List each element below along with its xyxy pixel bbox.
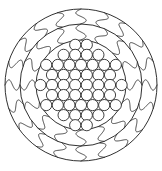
core-circle-35	[64, 99, 75, 110]
core-circle-8	[64, 59, 75, 70]
core-circle-31	[93, 89, 104, 100]
core-circle-40	[58, 110, 69, 121]
core-circle-45	[81, 120, 92, 131]
core-circle-27	[46, 89, 57, 100]
core-circle-12	[110, 59, 121, 70]
core-circle-24	[93, 79, 104, 90]
core-circle-20	[46, 79, 57, 90]
core-circle-18	[104, 69, 115, 80]
core-circle-14	[58, 69, 69, 80]
core-circle-5	[93, 49, 104, 60]
core-circle-21	[58, 79, 69, 90]
core-circle-23	[81, 79, 92, 90]
core-circle-9	[75, 59, 86, 70]
core-circle-1	[81, 39, 92, 50]
core-circle-34	[52, 99, 63, 110]
core-circle-42	[81, 110, 92, 121]
core-circle-38	[99, 99, 110, 110]
figure-root	[0, 0, 162, 171]
core-circle-37	[87, 99, 98, 110]
core-circle-39	[110, 99, 121, 110]
core-circle-4	[81, 49, 92, 60]
core-circle-15	[70, 69, 81, 80]
core-circle-44	[70, 120, 81, 131]
concentric-ring-diagram	[0, 0, 162, 171]
core-circle-6	[41, 59, 52, 70]
core-circle-26	[116, 79, 127, 90]
core-circle-43	[93, 110, 104, 121]
core-circle-19	[35, 79, 46, 90]
core-circle-22	[70, 79, 81, 90]
core-circle-30	[81, 89, 92, 100]
core-circle-29	[70, 89, 81, 100]
core-circle-0	[70, 39, 81, 50]
core-circle-41	[70, 110, 81, 121]
core-circle-2	[58, 49, 69, 60]
core-circle-3	[70, 49, 81, 60]
core-circle-11	[99, 59, 110, 70]
core-circle-32	[104, 89, 115, 100]
core-circle-7	[52, 59, 63, 70]
core-circle-17	[93, 69, 104, 80]
core-circle-28	[58, 89, 69, 100]
core-circle-33	[41, 99, 52, 110]
core-circle-10	[87, 59, 98, 70]
core-circle-36	[75, 99, 86, 110]
core-circle-25	[104, 79, 115, 90]
core-circle-13	[46, 69, 57, 80]
core-circle-16	[81, 69, 92, 80]
